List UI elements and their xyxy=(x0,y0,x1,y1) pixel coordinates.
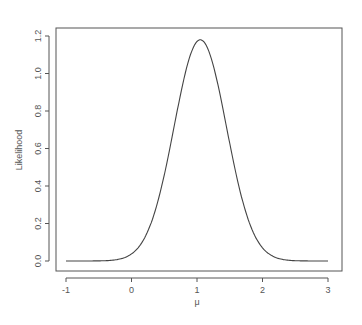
likelihood-curve xyxy=(66,40,328,261)
likelihood-chart: 0.00.20.40.60.81.01.2 -10123 Likelihood … xyxy=(0,0,362,325)
x-tick-label: 0 xyxy=(129,285,134,295)
x-tick-label: 3 xyxy=(325,285,330,295)
y-tick-label: 0.6 xyxy=(33,142,43,155)
y-tick-label: 0.0 xyxy=(33,255,43,268)
x-axis-title: μ xyxy=(194,297,199,307)
x-tick-label: 1 xyxy=(194,285,199,295)
x-tick-label: 2 xyxy=(260,285,265,295)
plot-frame xyxy=(56,28,342,271)
y-tick-label: 0.8 xyxy=(33,105,43,118)
x-axis: -10123 xyxy=(62,278,331,295)
y-axis: 0.00.20.40.60.81.01.2 xyxy=(33,30,49,268)
y-tick-label: 0.4 xyxy=(33,180,43,193)
x-tick-label: -1 xyxy=(62,285,70,295)
y-tick-label: 1.2 xyxy=(33,30,43,43)
y-tick-label: 1.0 xyxy=(33,67,43,80)
y-axis-title: Likelihood xyxy=(14,130,24,171)
y-tick-label: 0.2 xyxy=(33,217,43,230)
